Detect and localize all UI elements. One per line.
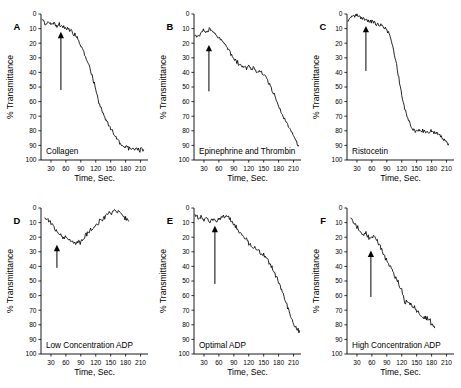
x-tick-label: 150 — [105, 359, 116, 366]
y-tick-label: 40 — [182, 263, 190, 270]
x-tick-label: 210 — [135, 359, 146, 366]
y-tick-label: 100 — [331, 156, 342, 163]
y-tick-label: 80 — [182, 321, 190, 328]
x-tick-label: 30 — [200, 359, 208, 366]
y-tick-label: 50 — [182, 83, 190, 90]
y-tick-label: 40 — [182, 69, 190, 76]
x-tick-label: 210 — [441, 359, 452, 366]
x-tick-label: 90 — [77, 359, 85, 366]
x-tick-label: 30 — [353, 359, 361, 366]
y-tick-label: 30 — [29, 54, 37, 61]
y-tick-label: 0 — [33, 204, 37, 211]
curve-label: Low Concentration ADP — [46, 341, 133, 350]
y-axis-title: % Transmittance — [5, 249, 15, 313]
panel-e: 0102030405060708090100306090120150180210… — [153, 194, 306, 388]
x-tick-label: 30 — [47, 359, 55, 366]
panel-letter: E — [167, 215, 173, 226]
y-tick-label: 50 — [335, 83, 343, 90]
panel-a: 0102030405060708090100306090120150180210… — [0, 0, 153, 194]
x-tick-label: 90 — [383, 359, 391, 366]
y-tick-label: 80 — [182, 127, 190, 134]
y-tick-label: 70 — [29, 113, 37, 120]
y-tick-label: 10 — [182, 219, 190, 226]
x-tick-label: 150 — [258, 165, 269, 172]
agonist-arrow-head — [368, 251, 374, 257]
x-tick-label: 180 — [426, 165, 437, 172]
y-axis-title: % Transmittance — [311, 55, 321, 119]
y-tick-label: 60 — [182, 292, 190, 299]
y-tick-label: 90 — [29, 142, 37, 149]
y-tick-label: 20 — [29, 234, 37, 241]
y-tick-label: 20 — [182, 40, 190, 47]
panel-letter: D — [14, 215, 21, 226]
aggregation-trace — [195, 28, 299, 147]
panel-plot-f: 0102030405060708090100306090120150180210… — [306, 194, 459, 388]
y-tick-label: 50 — [29, 83, 37, 90]
y-tick-label: 70 — [335, 307, 343, 314]
x-tick-label: 60 — [62, 359, 70, 366]
y-tick-label: 90 — [182, 142, 190, 149]
x-tick-label: 120 — [243, 165, 254, 172]
panel-c: 0102030405060708090100306090120150180210… — [306, 0, 459, 194]
y-tick-label: 0 — [186, 10, 190, 17]
y-axis-title: % Transmittance — [158, 249, 168, 313]
y-tick-label: 30 — [182, 54, 190, 61]
y-tick-label: 50 — [29, 277, 37, 284]
x-tick-label: 60 — [368, 359, 376, 366]
agonist-arrow-head — [212, 226, 218, 232]
curve-label: Epinephrine and Thrombin — [199, 147, 296, 156]
x-tick-label: 150 — [411, 165, 422, 172]
x-tick-label: 120 — [396, 359, 407, 366]
y-tick-label: 80 — [335, 321, 343, 328]
y-tick-label: 40 — [29, 69, 37, 76]
curve-label: Ristocetin — [352, 147, 388, 156]
aggregation-trace — [351, 218, 435, 327]
y-tick-label: 10 — [29, 25, 37, 32]
x-tick-label: 60 — [215, 165, 223, 172]
y-tick-label: 20 — [182, 234, 190, 241]
y-tick-label: 100 — [178, 156, 189, 163]
panel-letter: C — [320, 21, 327, 32]
y-tick-label: 10 — [335, 25, 343, 32]
y-tick-label: 60 — [335, 292, 343, 299]
x-axis-title: Time, Sec. — [380, 367, 421, 377]
aggregation-trace — [45, 210, 129, 245]
panel-plot-c: 0102030405060708090100306090120150180210… — [306, 0, 459, 194]
x-tick-label: 120 — [90, 165, 101, 172]
panel-plot-d: 0102030405060708090100306090120150180210… — [0, 194, 153, 388]
y-tick-label: 0 — [33, 10, 37, 17]
y-axis-title: % Transmittance — [5, 55, 15, 119]
y-tick-label: 70 — [182, 113, 190, 120]
y-axis-title: % Transmittance — [311, 249, 321, 313]
y-tick-label: 40 — [335, 263, 343, 270]
x-tick-label: 210 — [135, 165, 146, 172]
y-tick-label: 10 — [29, 219, 37, 226]
x-tick-label: 60 — [368, 165, 376, 172]
y-tick-label: 40 — [29, 263, 37, 270]
agonist-arrow-head — [206, 45, 212, 51]
y-tick-label: 20 — [29, 40, 37, 47]
y-tick-label: 80 — [335, 127, 343, 134]
y-tick-label: 10 — [182, 25, 190, 32]
agonist-arrow-head — [54, 245, 60, 251]
x-tick-label: 180 — [120, 359, 131, 366]
x-tick-label: 180 — [273, 359, 284, 366]
y-tick-label: 70 — [335, 113, 343, 120]
curve-label: Optimal ADP — [199, 341, 246, 350]
x-tick-label: 120 — [243, 359, 254, 366]
y-tick-label: 0 — [186, 204, 190, 211]
x-tick-label: 210 — [288, 359, 299, 366]
x-tick-label: 150 — [258, 359, 269, 366]
y-tick-label: 70 — [182, 307, 190, 314]
x-axis-title: Time, Sec. — [74, 173, 115, 183]
x-tick-label: 210 — [288, 165, 299, 172]
x-tick-label: 90 — [77, 165, 85, 172]
y-tick-label: 40 — [335, 69, 343, 76]
x-axis-title: Time, Sec. — [227, 367, 268, 377]
x-tick-label: 120 — [396, 165, 407, 172]
agonist-arrow-head — [58, 32, 64, 38]
x-tick-label: 180 — [273, 165, 284, 172]
x-tick-label: 90 — [230, 359, 238, 366]
panel-letter: A — [14, 21, 21, 32]
x-tick-label: 180 — [426, 359, 437, 366]
